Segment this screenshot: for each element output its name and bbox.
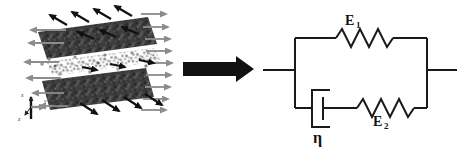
viscoelastic-model: E 1 E 2 η bbox=[263, 13, 457, 147]
figure: x y z E 1 E 2 η bbox=[0, 0, 472, 150]
spring-e2-label: E 2 bbox=[373, 114, 389, 131]
axis-label-x: x bbox=[20, 92, 24, 98]
spring-e2-subscript: 2 bbox=[384, 121, 389, 131]
spring-e2-icon bbox=[357, 99, 414, 117]
molecular-snapshot: x y z bbox=[17, 6, 172, 122]
coordinate-axes: x y z bbox=[17, 92, 47, 122]
shear-arrow-up-left-icon bbox=[94, 9, 111, 19]
spring-e1-symbol: E bbox=[345, 13, 354, 28]
shear-arrow-up-left-icon bbox=[115, 6, 132, 16]
axis-label-z: z bbox=[17, 116, 21, 122]
figure-canvas: x y z E 1 E 2 η bbox=[0, 0, 472, 150]
axis-label-y: y bbox=[43, 98, 47, 104]
spring-e2-symbol: E bbox=[373, 114, 382, 129]
spring-e1-subscript: 1 bbox=[356, 20, 361, 30]
maps-to-arrow-icon bbox=[183, 56, 254, 82]
shear-arrow-up-left-icon bbox=[50, 15, 67, 25]
dashpot-eta-label: η bbox=[313, 129, 322, 147]
spring-e1-label: E 1 bbox=[345, 13, 361, 30]
spring-e1-icon bbox=[336, 29, 393, 47]
shear-arrow-up-left-icon bbox=[72, 12, 89, 22]
